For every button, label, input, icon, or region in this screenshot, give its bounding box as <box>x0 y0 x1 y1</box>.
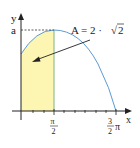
y-axis-arrow-icon <box>18 13 24 20</box>
pi-half-denominator: 2 <box>52 127 56 136</box>
three-half-pi: π <box>115 121 120 132</box>
area-under-curve-diagram: y a x π 2 3 2 π A = 2 · √ 2 <box>0 0 140 148</box>
pi-half-numerator: π <box>51 117 55 126</box>
x-axis-label: x <box>126 114 131 125</box>
shaded-area <box>21 30 54 111</box>
area-annotation-radical: √ <box>111 24 118 36</box>
a-label: a <box>11 24 16 36</box>
area-annotation-lhs: A = 2 · <box>71 24 102 36</box>
three-half-numerator: 3 <box>108 117 112 126</box>
y-axis-label: y <box>11 12 17 24</box>
three-half-denominator: 2 <box>108 127 112 136</box>
area-annotation-radicand: 2 <box>118 24 124 36</box>
